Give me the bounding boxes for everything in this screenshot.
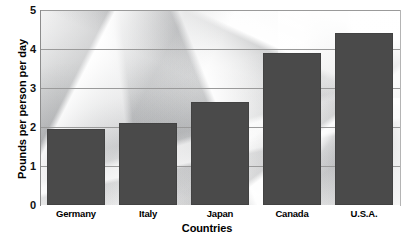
x-tick-label-canada: Canada: [256, 208, 328, 219]
y-tick-label-0: 0: [14, 200, 36, 211]
x-axis-title: Countries: [0, 222, 414, 234]
bar-u-s-a: [335, 33, 393, 205]
x-tick-label-germany: Germany: [40, 208, 112, 219]
bar-germany: [47, 129, 105, 205]
bars-layer: [40, 10, 400, 205]
chart-screenshot: 543210 Pounds per person per day Germany…: [0, 0, 414, 238]
bar-japan: [191, 102, 249, 205]
y-axis-title: Pounds per person per day: [16, 29, 28, 189]
bar-canada: [263, 53, 321, 205]
y-tick-label-5: 5: [14, 5, 36, 16]
plot-area: [40, 10, 400, 205]
x-tick-label-italy: Italy: [112, 208, 184, 219]
bar-italy: [119, 123, 177, 205]
x-tick-label-japan: Japan: [184, 208, 256, 219]
y-axis-line: [40, 10, 41, 206]
x-tick-label-u-s-a: U.S.A.: [328, 208, 400, 219]
plot-right-border: [400, 10, 401, 206]
